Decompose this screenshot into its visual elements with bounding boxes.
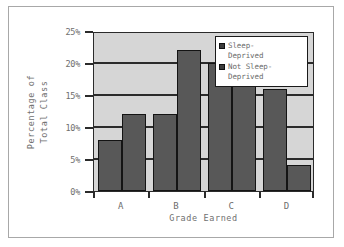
x-tick-label-D: D bbox=[284, 201, 289, 211]
x-tick-label-B: B bbox=[173, 201, 178, 211]
bar-A-not-sleep-deprived bbox=[122, 114, 146, 191]
bar-D-not-sleep-deprived bbox=[287, 165, 311, 191]
legend-entry-not-sleep-deprived: Not Sleep- Deprived bbox=[219, 62, 304, 81]
x-tick-label-A: A bbox=[118, 201, 123, 211]
y-tick-label-25%: 25% bbox=[66, 27, 80, 37]
x-tick-mark-3 bbox=[259, 192, 261, 198]
legend-label-sleep-deprived: Sleep- Deprived bbox=[228, 41, 263, 60]
legend-entry-sleep-deprived: Sleep- Deprived bbox=[219, 41, 304, 60]
x-tick-label-C: C bbox=[228, 201, 233, 211]
bar-A-sleep-deprived bbox=[98, 140, 122, 191]
y-tick-label-0%: 0% bbox=[70, 187, 80, 197]
bar-B-not-sleep-deprived bbox=[177, 50, 201, 191]
bar-group-A bbox=[98, 33, 146, 191]
legend-label-not-sleep-deprived: Not Sleep- Deprived bbox=[228, 62, 272, 81]
x-axis-title: Grade Earned bbox=[93, 213, 314, 223]
y-tick-mark-0% bbox=[85, 191, 93, 193]
y-tick-label-20%: 20% bbox=[66, 59, 80, 69]
y-tick-mark-5% bbox=[85, 159, 93, 161]
bar-B-sleep-deprived bbox=[153, 114, 177, 191]
x-tick-mark-4 bbox=[312, 192, 314, 198]
y-tick-label-5%: 5% bbox=[70, 155, 80, 165]
y-tick-mark-25% bbox=[85, 31, 93, 33]
y-tick-mark-15% bbox=[85, 95, 93, 97]
y-tick-label-15%: 15% bbox=[66, 91, 80, 101]
y-tick-mark-20% bbox=[85, 63, 93, 65]
chart-figure: Percentage of Total Class 0%5%10%15%20%2… bbox=[0, 0, 344, 247]
bar-D-sleep-deprived bbox=[263, 89, 287, 191]
x-tick-mark-1 bbox=[148, 192, 150, 198]
x-tick-mark-0 bbox=[93, 192, 95, 198]
y-tick-label-10%: 10% bbox=[66, 123, 80, 133]
y-tick-mark-10% bbox=[85, 127, 93, 129]
x-tick-mark-2 bbox=[204, 192, 206, 198]
chart-legend: Sleep- DeprivedNot Sleep- Deprived bbox=[215, 36, 308, 87]
bar-group-B bbox=[153, 33, 201, 191]
legend-swatch-not-sleep-deprived-icon bbox=[219, 64, 225, 70]
y-axis: 0%5%10%15%20%25% bbox=[0, 32, 93, 192]
legend-swatch-sleep-deprived-icon bbox=[219, 43, 225, 49]
